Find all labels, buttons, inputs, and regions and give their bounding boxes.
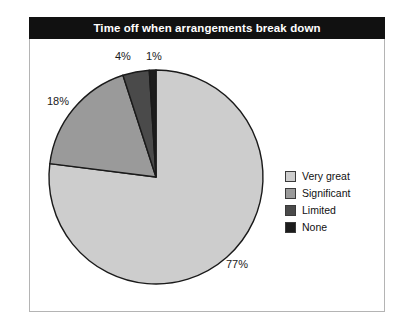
legend-item-very-great: Very great xyxy=(285,168,380,184)
legend-swatch-significant xyxy=(285,188,296,199)
page-title: Time off when arrangements break down xyxy=(29,17,385,39)
legend-item-significant: Significant xyxy=(285,185,380,201)
legend-swatch-very-great xyxy=(285,171,296,182)
legend-swatch-limited xyxy=(285,205,296,216)
chart-legend: Very great Significant Limited None xyxy=(285,168,380,236)
pie-label-none: 1% xyxy=(146,50,162,62)
pie-label-limited: 4% xyxy=(115,50,131,62)
legend-swatch-none xyxy=(285,222,296,233)
legend-item-none: None xyxy=(285,219,380,235)
legend-item-limited: Limited xyxy=(285,202,380,218)
legend-label-significant: Significant xyxy=(302,187,350,199)
pie-label-very-great: 77% xyxy=(226,258,248,270)
legend-label-limited: Limited xyxy=(302,204,336,216)
chart-title-bar: Time off when arrangements break down xyxy=(29,17,385,39)
legend-label-none: None xyxy=(302,221,327,233)
legend-label-very-great: Very great xyxy=(302,170,350,182)
pie-label-significant: 18% xyxy=(47,95,69,107)
chart-figure: Time off when arrangements break down 77… xyxy=(0,0,408,324)
